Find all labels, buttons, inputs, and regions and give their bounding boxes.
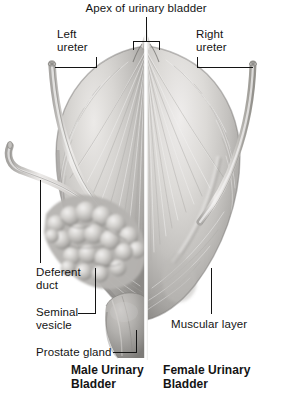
label-deferent-duct: Deferent duct [36,266,108,292]
label-left-ureter: Left ureter [57,28,119,54]
anatomical-illustration [0,0,292,402]
label-right-ureter: Right ureter [196,28,266,54]
title-female-urinary-bladder: Female Urinary Bladder [163,363,283,391]
leader-deferent-duct [40,180,41,263]
label-apex-of-urinary-bladder: Apex of urinary bladder [57,2,235,15]
leader-prostate-stem [136,330,137,353]
leader-apex-right [159,41,160,50]
leader-apex-stem [146,17,147,41]
title-male-urinary-bladder: Male Urinary Bladder [71,363,171,391]
urinary-bladder-figure: Apex of urinary bladder Left ureter Righ… [0,0,292,402]
label-seminal-vesicle: Seminal vesicle [36,306,108,332]
leader-right-ureter-arm [197,67,253,68]
leader-apex-left [133,41,134,50]
leader-left-ureter-arm [55,67,97,68]
label-muscular-layer: Muscular layer [171,318,281,331]
leader-apex-bracket [133,41,160,42]
label-prostate-gland: Prostate gland [36,346,126,359]
leader-muscular-layer [211,268,212,314]
